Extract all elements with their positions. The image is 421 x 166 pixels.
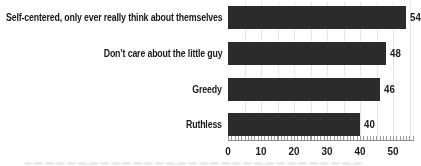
cropped-text-remnant xyxy=(24,162,364,165)
category-label: Greedy xyxy=(193,78,222,101)
category-label: Ruthless xyxy=(186,113,222,136)
bar-value-label: 48 xyxy=(390,42,401,65)
x-axis-tick-label: 30 xyxy=(316,145,338,157)
category-label: Self-centered, only ever really think ab… xyxy=(6,6,222,29)
bar-value-label: 54 xyxy=(410,6,421,29)
x-axis-ruler xyxy=(228,136,414,141)
category-label: Don’t care about the little guy xyxy=(103,42,222,65)
x-axis-tick-label: 0 xyxy=(217,145,239,157)
bar xyxy=(228,113,360,136)
x-axis-tick-labels: 01020304050 xyxy=(228,145,418,161)
bar-chart: Self-centered, only ever really think ab… xyxy=(0,0,421,166)
x-axis-tick-label: 10 xyxy=(250,145,272,157)
bar xyxy=(228,42,386,65)
x-axis-tick-label: 40 xyxy=(349,145,371,157)
bar xyxy=(228,78,380,101)
bar-value-label: 46 xyxy=(384,78,395,101)
category-labels: Self-centered, only ever really think ab… xyxy=(0,0,222,140)
bar-value-label: 40 xyxy=(364,113,375,136)
plot-area: 54484640 xyxy=(228,2,414,140)
x-axis-tick-label: 20 xyxy=(283,145,305,157)
x-axis-tick-label: 50 xyxy=(382,145,404,157)
bar xyxy=(228,6,406,29)
